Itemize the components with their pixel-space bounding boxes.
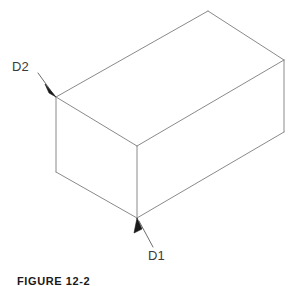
- edge-bottom-left-to-front: [56, 172, 137, 218]
- dimension-label-d1: D1: [148, 249, 165, 262]
- arrowhead-d2: [45, 84, 56, 97]
- dimension-label-d2: D2: [12, 60, 29, 73]
- figure-container: D2 D1 FIGURE 12-2: [0, 0, 301, 286]
- leader-line-d1: [139, 221, 153, 247]
- dimension-leader-d1: [134, 218, 153, 247]
- arrowhead-d1: [134, 218, 142, 233]
- edge-top-back-to-top-right: [208, 11, 284, 60]
- edge-top-front-to-top-right: [137, 60, 284, 146]
- dimension-leader-d2: [38, 73, 56, 97]
- edge-bottom-front-to-right: [137, 132, 284, 218]
- isometric-box-drawing: [0, 0, 301, 286]
- box-edges: [56, 11, 284, 218]
- edge-top-left-to-top-back: [56, 11, 208, 97]
- figure-caption: FIGURE 12-2: [17, 275, 90, 286]
- edge-top-left-to-top-front: [56, 97, 137, 146]
